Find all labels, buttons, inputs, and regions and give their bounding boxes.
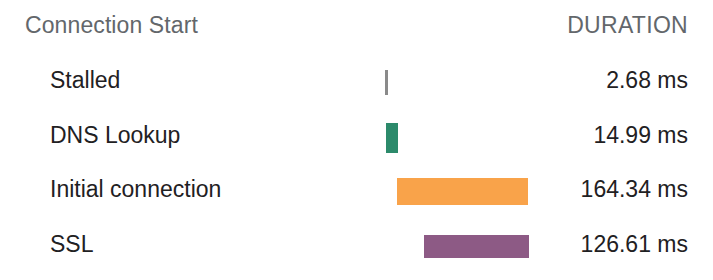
column-header-duration: DURATION [567, 12, 688, 39]
connection-timing-waterfall: Connection Start DURATION Stalled 2.68 m… [0, 0, 713, 280]
table-row[interactable]: Initial connection 164.34 ms [0, 164, 713, 219]
bar-track-ssl [330, 219, 530, 274]
row-label-stalled: Stalled [50, 67, 120, 94]
bar-track-dns-lookup [330, 110, 530, 165]
row-label-dns-lookup: DNS Lookup [50, 122, 180, 149]
row-duration-stalled: 2.68 ms [606, 67, 688, 94]
bar-track-initial-connection [330, 164, 530, 219]
row-duration-ssl: 126.61 ms [581, 231, 688, 258]
bar-initial-connection[interactable] [397, 178, 528, 205]
row-duration-initial-connection: 164.34 ms [581, 176, 688, 203]
table-row[interactable]: SSL 126.61 ms [0, 219, 713, 274]
row-label-ssl: SSL [50, 231, 93, 258]
bar-stalled[interactable] [385, 70, 388, 95]
waterfall-header-row: Connection Start DURATION [0, 0, 713, 55]
bar-ssl[interactable] [424, 235, 529, 258]
bar-track-stalled [330, 55, 530, 110]
table-row[interactable]: DNS Lookup 14.99 ms [0, 110, 713, 165]
bar-dns-lookup[interactable] [386, 123, 398, 153]
table-row[interactable]: Stalled 2.68 ms [0, 55, 713, 110]
column-header-connection-start: Connection Start [25, 12, 198, 39]
row-duration-dns-lookup: 14.99 ms [593, 122, 688, 149]
row-label-initial-connection: Initial connection [50, 176, 221, 203]
